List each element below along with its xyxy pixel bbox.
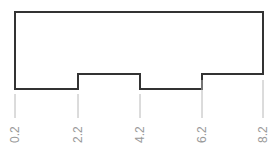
- tick-label-0-2: 0.2: [8, 126, 22, 143]
- tick-label-8-2: 8.2: [256, 126, 270, 143]
- tick-label-4-2: 4.2: [133, 126, 147, 143]
- stepped-profile-diagram: 0.2 2.2 4.2 6.2 8.2: [0, 0, 279, 156]
- profile-outline: [15, 12, 263, 89]
- tick-label-6-2: 6.2: [195, 126, 209, 143]
- tick-label-2-2: 2.2: [71, 126, 85, 143]
